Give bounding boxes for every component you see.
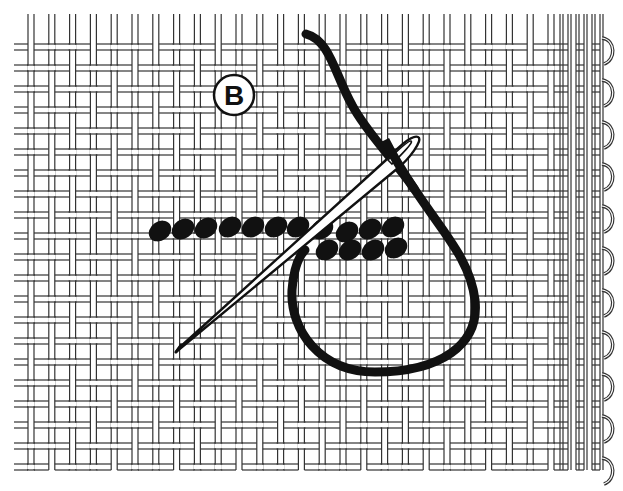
step-marker: B xyxy=(214,75,254,115)
selvage-edge xyxy=(602,38,613,484)
step-label: B xyxy=(224,80,244,111)
stitch-illustration: B xyxy=(0,0,623,491)
illustration-canvas: B xyxy=(0,0,623,491)
